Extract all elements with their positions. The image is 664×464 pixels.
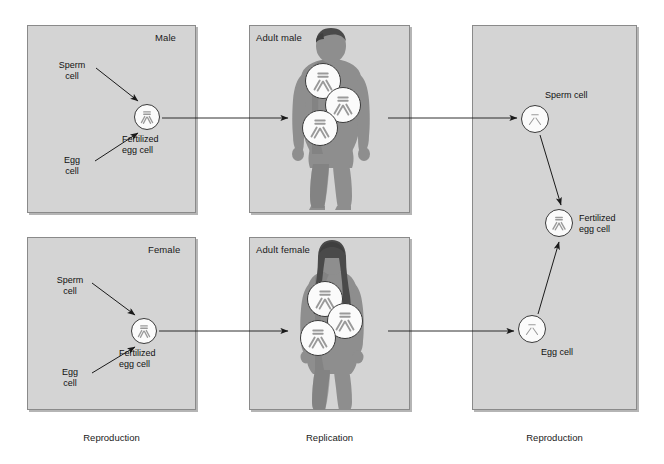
label-sperm-female-line2: cell — [48, 286, 92, 297]
label-fertilized-line2: egg cell — [122, 145, 159, 156]
label-sperm-cell-female: Sperm cell — [48, 275, 92, 297]
cell-fertilized-egg-offspring — [545, 209, 573, 237]
cell-body-female-3 — [300, 320, 336, 356]
label-sperm-female-line1: Sperm — [48, 275, 92, 286]
label-egg-cell-male: Egg cell — [52, 155, 92, 177]
label-fertilized-egg-female: Fertilized egg cell — [119, 348, 156, 370]
label-egg-female-line2: cell — [50, 378, 90, 389]
label-egg-cell-female: Egg cell — [50, 367, 90, 389]
label-fertilized-female-line1: Fertilized — [119, 348, 156, 359]
panel-title-female: Female — [148, 244, 180, 255]
caption-replication: Replication — [249, 432, 410, 443]
label-fertilized-female-line2: egg cell — [119, 359, 156, 370]
label-fertilized-egg-male: Fertilized egg cell — [122, 134, 159, 156]
label-fertilized-egg-offspring: Fertilized egg cell — [579, 213, 616, 235]
label-fertilized-line1: Fertilized — [122, 134, 159, 145]
panel-title-male: Male — [155, 32, 176, 43]
cell-fertilized-egg-male-panel — [134, 104, 160, 130]
label-egg-cell-offspring: Egg cell — [541, 347, 573, 358]
caption-reproduction-right: Reproduction — [472, 432, 637, 443]
caption-reproduction-left: Reproduction — [27, 432, 196, 443]
label-sperm-line1: Sperm — [50, 60, 94, 71]
cell-egg-offspring — [518, 315, 546, 343]
panel-male-reproduction — [27, 25, 196, 213]
cell-sperm-offspring — [521, 105, 549, 133]
label-egg-female-line1: Egg — [50, 367, 90, 378]
label-egg-line1: Egg — [52, 155, 92, 166]
label-fert-offspring-line1: Fertilized — [579, 213, 616, 224]
cell-body-male-3 — [302, 110, 338, 146]
cell-fertilized-egg-female-panel — [131, 318, 157, 344]
label-egg-line2: cell — [52, 166, 92, 177]
diagram-canvas: Male Adult male Female Adult female — [0, 0, 664, 464]
label-fert-offspring-line2: egg cell — [579, 224, 616, 235]
label-sperm-cell-offspring: Sperm cell — [545, 90, 588, 101]
label-sperm-cell-male: Sperm cell — [50, 60, 94, 82]
label-sperm-line2: cell — [50, 71, 94, 82]
